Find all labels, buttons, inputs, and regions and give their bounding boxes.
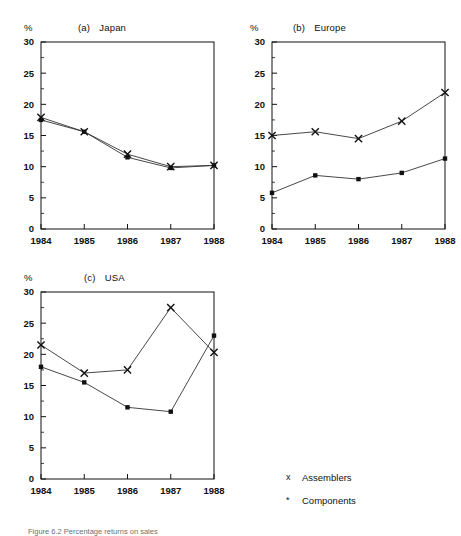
x-tick-label: 1986: [117, 485, 138, 496]
x-tick-label: 1985: [74, 235, 96, 246]
panel-japan: % (a)Japan 05101520253019841985198619871…: [0, 0, 230, 265]
marker-star-icon: [270, 191, 274, 195]
y-tick-label: 25: [23, 318, 34, 329]
y-tick-label: 5: [260, 192, 266, 203]
marker-star-icon: [169, 409, 173, 413]
x-tick-label: 1986: [348, 235, 369, 246]
marker-star-icon: [443, 156, 447, 160]
y-tick-label: 0: [260, 223, 265, 234]
chart-europe: 05101520253019841985198619871988: [231, 30, 461, 260]
series-assemblers: [37, 114, 217, 170]
y-tick-label: 25: [254, 68, 265, 79]
x-tick-label: 1987: [160, 485, 181, 496]
marker-star-icon: [212, 333, 216, 337]
marker-star-icon: [82, 380, 86, 384]
figure-caption: Figure 6.2 Percentage returns on sales: [28, 527, 158, 536]
x-tick-label: 1984: [30, 235, 52, 246]
chart-japan: 05101520253019841985198619871988: [0, 30, 230, 260]
series-components: [39, 333, 216, 413]
x-tick-label: 1986: [117, 235, 138, 246]
plot-frame: [272, 42, 445, 229]
y-tick-label: 10: [254, 161, 265, 172]
y-tick-label: 5: [29, 192, 35, 203]
series-line: [272, 159, 445, 193]
series-components: [270, 156, 447, 195]
x-tick-label: 1988: [434, 235, 455, 246]
series-assemblers: [37, 304, 217, 377]
x-tick-label: 1984: [30, 485, 52, 496]
y-tick-label: 15: [254, 130, 265, 141]
y-tick-label: 10: [23, 411, 34, 422]
plot-frame: [41, 42, 214, 229]
y-tick-label: 15: [23, 380, 34, 391]
legend: x Assemblers * Components: [286, 472, 356, 518]
marker-star-icon: [82, 130, 86, 134]
series-assemblers: [268, 89, 448, 142]
marker-x-icon: [167, 304, 174, 311]
y-tick-label: 25: [23, 68, 34, 79]
marker-star-icon: [356, 177, 360, 181]
y-tick-label: 0: [29, 223, 34, 234]
marker-star-icon: [313, 173, 317, 177]
x-tick-label: 1988: [203, 235, 224, 246]
panel-europe: % (b)Europe 0510152025301984198519861987…: [231, 0, 461, 265]
series-line: [41, 336, 214, 412]
x-tick-label: 1985: [305, 235, 327, 246]
series-line: [272, 92, 445, 138]
marker-star-icon: [125, 155, 129, 159]
marker-star-icon: [39, 118, 43, 122]
x-tick-label: 1987: [391, 235, 412, 246]
legend-label-components: Components: [302, 495, 356, 506]
marker-star-icon: [169, 166, 173, 170]
marker-star-icon: [400, 171, 404, 175]
y-tick-label: 30: [23, 36, 34, 47]
y-tick-label: 20: [254, 99, 265, 110]
panel-usa: % (c)USA 0510152025301984198519861987198…: [0, 265, 230, 515]
plot-frame: [41, 292, 214, 479]
marker-x-icon: [398, 118, 405, 125]
marker-star-icon: [39, 365, 43, 369]
y-tick-label: 5: [29, 442, 35, 453]
x-tick-label: 1987: [160, 235, 181, 246]
legend-item-components: * Components: [286, 495, 356, 506]
marker-star-icon: [125, 405, 129, 409]
y-tick-label: 10: [23, 161, 34, 172]
y-tick-label: 20: [23, 99, 34, 110]
series-line: [41, 120, 214, 168]
legend-marker-x-icon: x: [286, 472, 302, 483]
x-tick-label: 1985: [74, 485, 96, 496]
legend-item-assemblers: x Assemblers: [286, 472, 356, 483]
legend-marker-star-icon: *: [286, 495, 302, 506]
y-tick-label: 15: [23, 130, 34, 141]
legend-label-assemblers: Assemblers: [302, 472, 352, 483]
x-tick-label: 1988: [203, 485, 224, 496]
series-line: [41, 308, 214, 373]
y-tick-label: 30: [23, 286, 34, 297]
y-tick-label: 30: [254, 36, 265, 47]
marker-star-icon: [212, 163, 216, 167]
x-tick-label: 1984: [261, 235, 283, 246]
y-tick-label: 0: [29, 473, 34, 484]
y-tick-label: 20: [23, 349, 34, 360]
chart-usa: 05101520253019841985198619871988: [0, 280, 230, 510]
